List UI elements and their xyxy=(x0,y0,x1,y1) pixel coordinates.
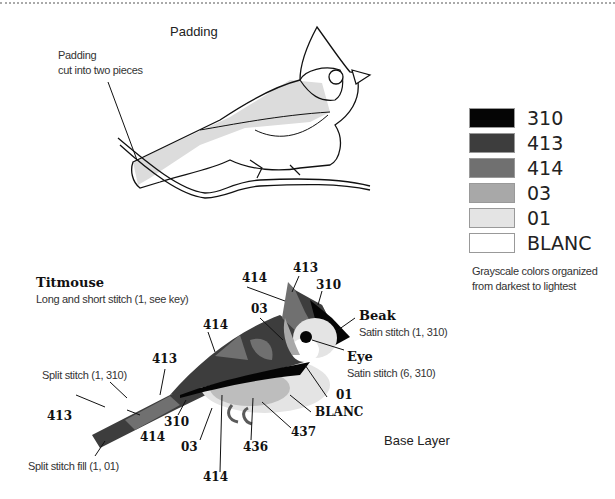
padding-title: Padding xyxy=(170,24,218,39)
legend-label: BLANC xyxy=(527,233,592,253)
legend-item-413: 413 xyxy=(469,130,592,155)
swatch-310 xyxy=(469,108,515,128)
legend-item-blanc: BLANC xyxy=(469,230,592,255)
legend-item-03: 03 xyxy=(469,180,592,205)
padding-note-line1: Padding xyxy=(58,48,143,63)
legend-note-line2: from darkest to lightest xyxy=(472,279,597,294)
split-fill-note: Split stitch fill (1, 01) xyxy=(28,459,119,474)
legend-item-414: 414 xyxy=(469,155,592,180)
swatch-01 xyxy=(469,208,515,228)
eye-title: Eye xyxy=(347,349,373,364)
color-key: 310 413 414 03 01 BLANC xyxy=(469,105,592,255)
label-belly-437: 437 xyxy=(291,425,316,439)
padding-note: Padding cut into two pieces xyxy=(58,48,143,78)
label-tail-414: 414 xyxy=(140,430,165,444)
eye-subtitle: Satin stitch (6, 310) xyxy=(347,366,435,381)
base-layer-label: Base Layer xyxy=(384,433,450,448)
titmouse-subtitle: Long and short stitch (1, see key) xyxy=(36,292,188,307)
label-feet-436: 436 xyxy=(243,440,268,454)
label-under-310: 310 xyxy=(164,415,189,429)
legend-label: 01 xyxy=(527,208,551,228)
label-belly-03: 03 xyxy=(181,440,198,454)
titmouse-title: Titmouse xyxy=(36,275,104,290)
legend-item-01: 01 xyxy=(469,205,592,230)
legend-note: Grayscale colors organized from darkest … xyxy=(472,264,597,294)
label-breast-01: 01 xyxy=(336,388,353,402)
label-crest-413: 413 xyxy=(293,261,318,275)
label-wing-414: 414 xyxy=(203,318,228,332)
label-cheek-03: 03 xyxy=(251,302,268,316)
legend-label: 03 xyxy=(527,183,551,203)
label-crest-414: 414 xyxy=(242,271,267,285)
swatch-413 xyxy=(469,133,515,153)
label-wing-413: 413 xyxy=(152,352,177,366)
label-belly-414: 414 xyxy=(203,470,228,484)
swatch-03 xyxy=(469,183,515,203)
legend-label: 413 xyxy=(527,133,563,153)
label-breast-blanc: BLANC xyxy=(315,405,363,419)
split-stitch-note: Split stitch (1, 310) xyxy=(42,368,127,383)
padding-note-line2: cut into two pieces xyxy=(58,63,143,78)
legend-item-310: 310 xyxy=(469,105,592,130)
label-tail-413: 413 xyxy=(47,409,72,423)
label-crest-310: 310 xyxy=(316,278,341,292)
legend-label: 414 xyxy=(527,158,563,178)
legend-label: 310 xyxy=(527,108,563,128)
beak-title: Beak xyxy=(359,308,396,323)
swatch-blanc xyxy=(469,233,515,253)
legend-note-line1: Grayscale colors organized xyxy=(472,264,597,279)
swatch-414 xyxy=(469,158,515,178)
beak-subtitle: Satin stitch (1, 310) xyxy=(359,325,447,340)
